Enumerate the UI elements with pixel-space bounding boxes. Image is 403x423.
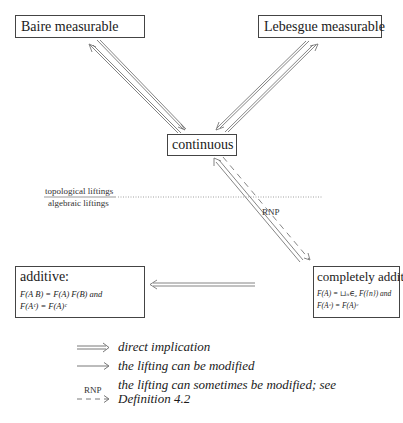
- completely-additive-formula-line2: F(Aᶜ) = F(A)ᶜ: [317, 300, 396, 312]
- additive-formula-line2: F(Aᶜ) = F(A)ᶜ: [20, 300, 140, 312]
- node-continuous: continuous: [167, 134, 237, 156]
- node-completely-additive: completely additive: F(A) = ⊔ₙ∈ₐ F({n}) …: [313, 266, 400, 318]
- legend-text-sometimes-modified-line2: Definition 4.2: [118, 392, 190, 406]
- legend-text-sometimes-modified-line1: the lifting can sometimes be modified; s…: [118, 378, 336, 392]
- edge-label-rnp: RNP: [262, 207, 280, 217]
- node-additive-label: additive:: [20, 268, 140, 286]
- divider-label-topological: topological liftings: [45, 186, 113, 196]
- node-lebesgue-label: Lebesgue measurable: [264, 18, 376, 36]
- divider-label-algebraic: algebraic liftings: [48, 198, 109, 208]
- legend-arrow-label-rnp: RNP: [84, 385, 102, 395]
- legend-double-arrow-icon: [77, 343, 109, 352]
- node-continuous-label: continuous: [172, 136, 232, 154]
- node-baire-measurable: Baire measurable: [15, 15, 145, 38]
- legend-dashed-arrow-icon: [77, 396, 109, 403]
- node-lebesgue-measurable: Lebesgue measurable: [258, 15, 382, 38]
- legend-text-direct-implication: direct implication: [118, 340, 210, 354]
- completely-additive-formula-line1: F(A) = ⊔ₙ∈ₐ F({n}) and: [317, 288, 396, 300]
- arrow-completely-additive-to-additive: [150, 280, 255, 289]
- node-completely-additive-label: completely additive:: [317, 268, 396, 286]
- legend-text-lifting-modified: the lifting can be modified: [118, 359, 254, 373]
- arrow-baire-continuous: [89, 40, 186, 133]
- node-baire-label: Baire measurable: [21, 18, 139, 36]
- node-additive: additive: F(A B) = F(A) F(B) and F(Aᶜ) =…: [15, 266, 145, 318]
- additive-formula-line1: F(A B) = F(A) F(B) and: [20, 288, 140, 300]
- legend-single-arrow-icon: [77, 363, 109, 370]
- arrow-lebesgue-continuous: [216, 41, 318, 132]
- arrow-completely-additive-to-continuous: [214, 158, 303, 262]
